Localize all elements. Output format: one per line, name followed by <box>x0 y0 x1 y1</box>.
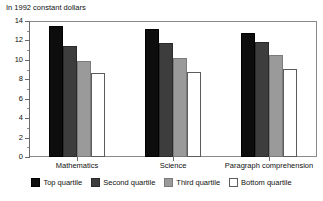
bar <box>255 42 269 157</box>
bars-layer <box>29 21 317 157</box>
y-tick-label-6: 6 <box>0 94 23 103</box>
y-tick-label-10: 10 <box>0 55 23 64</box>
y-tick-label-14: 14 <box>0 16 23 25</box>
legend-swatch-icon <box>164 178 173 187</box>
bar <box>173 58 187 157</box>
y-tick-label-2: 2 <box>0 133 23 142</box>
y-tick-label-8: 8 <box>0 74 23 83</box>
bar <box>91 73 105 157</box>
category-label-paragraph-comprehension: Paragraph comprehension <box>225 161 313 170</box>
chart-title: In 1992 constant dollars <box>6 3 86 12</box>
bar <box>63 46 77 157</box>
bar <box>241 33 255 157</box>
legend-item-bottom-quartile[interactable]: Bottom quartile <box>229 178 291 187</box>
legend-label: Third quartile <box>176 178 220 187</box>
legend-swatch-icon <box>31 178 40 187</box>
legend-label: Top quartile <box>43 178 82 187</box>
y-tick-label-4: 4 <box>0 113 23 122</box>
bar <box>77 61 91 157</box>
y-tick-0 <box>25 157 29 158</box>
bar <box>159 43 173 157</box>
bar <box>145 29 159 157</box>
legend-item-third-quartile[interactable]: Third quartile <box>164 178 220 187</box>
category-label-mathematics: Mathematics <box>56 161 99 170</box>
y-tick-label-12: 12 <box>0 35 23 44</box>
y-tick-label-0: 0 <box>0 152 23 161</box>
legend-swatch-icon <box>91 178 100 187</box>
bar <box>49 26 63 157</box>
bar-chart: In 1992 constant dollars 02468101214 Mat… <box>0 0 323 201</box>
bar <box>269 55 283 157</box>
category-label-science: Science <box>160 161 187 170</box>
legend-swatch-icon <box>229 178 238 187</box>
bar <box>283 69 297 157</box>
legend-label: Bottom quartile <box>241 178 291 187</box>
bar <box>187 72 201 157</box>
legend-item-second-quartile[interactable]: Second quartile <box>91 178 155 187</box>
chart-legend: Top quartileSecond quartileThird quartil… <box>0 178 323 187</box>
legend-item-top-quartile[interactable]: Top quartile <box>31 178 82 187</box>
legend-label: Second quartile <box>103 178 155 187</box>
